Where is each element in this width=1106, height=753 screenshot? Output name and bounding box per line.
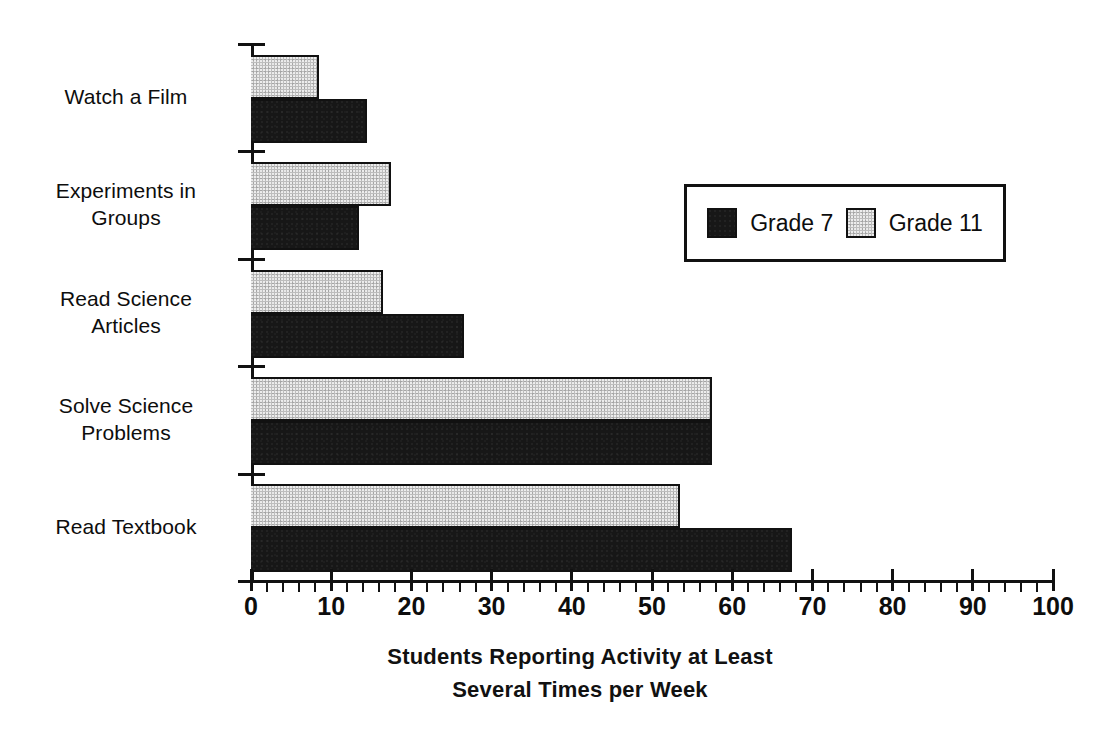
category-label-3: Solve ScienceProblems: [10, 392, 242, 446]
x-axis-major-tick: [651, 569, 654, 591]
bar-grade-7: [251, 314, 464, 358]
x-axis-tick-label: 50: [638, 592, 666, 621]
x-axis-minor-tick: [795, 580, 797, 592]
x-axis-tick-label: 10: [317, 592, 345, 621]
x-axis-minor-tick: [683, 580, 685, 592]
legend-swatch-icon-grade-11: [846, 208, 876, 238]
category-axis-labels: Watch a FilmExperiments inGroupsRead Sci…: [10, 43, 242, 580]
legend-item-grade-11: Grade 11: [846, 208, 983, 238]
x-axis-minor-tick: [314, 580, 316, 592]
x-axis-minor-tick: [523, 580, 525, 592]
category-label-1: Experiments inGroups: [10, 177, 242, 231]
x-axis-minor-tick: [426, 580, 428, 592]
x-axis-tick-label: 80: [879, 592, 907, 621]
x-axis-minor-tick: [475, 580, 477, 592]
x-axis-minor-tick: [362, 580, 364, 592]
x-axis-minor-tick: [346, 580, 348, 592]
category-label-line: Articles: [10, 312, 242, 339]
x-axis-minor-tick: [539, 580, 541, 592]
x-axis-major-tick: [330, 569, 333, 591]
x-axis-minor-tick: [779, 580, 781, 592]
x-axis-major-tick: [570, 569, 573, 591]
x-axis-tick-label: 30: [478, 592, 506, 621]
x-axis-minor-tick: [860, 580, 862, 592]
y-axis-tick: [238, 258, 265, 261]
bar-grade-11: [251, 377, 712, 421]
x-axis-tick-label: 100: [1032, 592, 1074, 621]
category-label-line: Read Science: [10, 285, 242, 312]
y-axis-tick: [238, 43, 265, 46]
x-axis-minor-tick: [699, 580, 701, 592]
bar-chart: Watch a FilmExperiments inGroupsRead Sci…: [0, 0, 1106, 753]
x-axis-major-tick: [891, 569, 894, 591]
x-axis-minor-tick: [747, 580, 749, 592]
x-axis-minor-tick: [507, 580, 509, 592]
bar-grade-11: [251, 270, 383, 314]
x-axis-minor-tick: [282, 580, 284, 592]
x-axis-tick-label: 70: [798, 592, 826, 621]
x-axis-minor-tick: [442, 580, 444, 592]
x-axis-major-tick: [1052, 569, 1055, 591]
category-label-line: Experiments in: [10, 177, 242, 204]
category-label-line: Solve Science: [10, 392, 242, 419]
x-axis-minor-tick: [378, 580, 380, 592]
x-axis-minor-tick: [924, 580, 926, 592]
x-axis-minor-tick: [876, 580, 878, 592]
bar-grade-11: [251, 484, 680, 528]
x-axis-minor-tick: [1004, 580, 1006, 592]
x-axis-minor-tick: [1020, 580, 1022, 592]
bar-grade-7: [251, 528, 792, 572]
x-axis-minor-tick: [667, 580, 669, 592]
x-axis-major-tick: [971, 569, 974, 591]
x-axis-major-tick: [811, 569, 814, 591]
x-axis-major-tick: [250, 569, 253, 591]
legend-swatch-icon-grade-7: [707, 208, 737, 238]
category-label-0: Watch a Film: [10, 83, 242, 110]
category-label-2: Read ScienceArticles: [10, 285, 242, 339]
legend-item-grade-7: Grade 7: [707, 208, 833, 238]
x-axis-tick-label: 20: [397, 592, 425, 621]
x-axis-tick-label: 0: [244, 592, 258, 621]
category-label-line: Read Textbook: [10, 513, 242, 540]
y-axis-tick: [238, 150, 265, 153]
category-label-line: Problems: [10, 419, 242, 446]
category-label-line: Watch a Film: [10, 83, 242, 110]
x-axis-minor-tick: [266, 580, 268, 592]
x-axis-minor-tick: [587, 580, 589, 592]
x-axis-major-tick: [410, 569, 413, 591]
x-axis-title-line-1: Students Reporting Activity at Least: [180, 640, 980, 673]
bar-grade-7: [251, 421, 712, 465]
category-label-4: Read Textbook: [10, 513, 242, 540]
x-axis-minor-tick: [555, 580, 557, 592]
x-axis-minor-tick: [940, 580, 942, 592]
bar-grade-7: [251, 99, 367, 143]
x-axis-minor-tick: [763, 580, 765, 592]
x-axis-tick-label: 40: [558, 592, 586, 621]
x-axis-minor-tick: [459, 580, 461, 592]
x-axis-minor-tick: [635, 580, 637, 592]
x-axis-major-tick: [731, 569, 734, 591]
x-axis-minor-tick: [956, 580, 958, 592]
x-axis-title-line-2: Several Times per Week: [180, 673, 980, 706]
x-axis-minor-tick: [908, 580, 910, 592]
x-axis-minor-tick: [1036, 580, 1038, 592]
legend-label-grade-11: Grade 11: [889, 210, 983, 237]
x-axis-title: Students Reporting Activity at Least Sev…: [180, 640, 980, 706]
legend: Grade 7 Grade 11: [684, 184, 1006, 262]
x-axis-minor-tick: [843, 580, 845, 592]
x-axis-minor-tick: [603, 580, 605, 592]
x-axis-minor-tick: [298, 580, 300, 592]
bar-grade-11: [251, 162, 391, 206]
x-axis-major-tick: [490, 569, 493, 591]
plot-area: [251, 43, 1053, 580]
x-axis-tick-label: 60: [718, 592, 746, 621]
bar-grade-11: [251, 55, 319, 99]
bar-grade-7: [251, 206, 359, 250]
x-axis-minor-tick: [827, 580, 829, 592]
y-axis-tick: [238, 365, 265, 368]
x-axis-minor-tick: [988, 580, 990, 592]
x-axis-minor-tick: [715, 580, 717, 592]
legend-label-grade-7: Grade 7: [750, 210, 833, 237]
x-axis-minor-tick: [619, 580, 621, 592]
y-axis-tick: [238, 473, 265, 476]
